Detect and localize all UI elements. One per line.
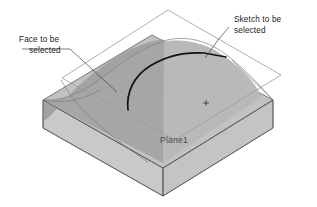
sketch-callout-text: Sketch to be selected: [234, 15, 282, 35]
sketch-callout-line2: selected: [234, 26, 266, 35]
face-callout-line1: Face to be: [19, 35, 59, 44]
sketch-callout-line1: Sketch to be: [234, 15, 282, 24]
face-callout-line2: selected: [29, 46, 61, 55]
solid-block: [43, 35, 273, 196]
plane1-label: Plane1: [160, 135, 188, 145]
face-callout-text: Face to be selected: [19, 35, 61, 55]
technical-illustration: Plane1 Face to be selected Sketch to be …: [0, 0, 317, 207]
cad-figure-svg: Plane1 Face to be selected Sketch to be …: [0, 0, 317, 207]
